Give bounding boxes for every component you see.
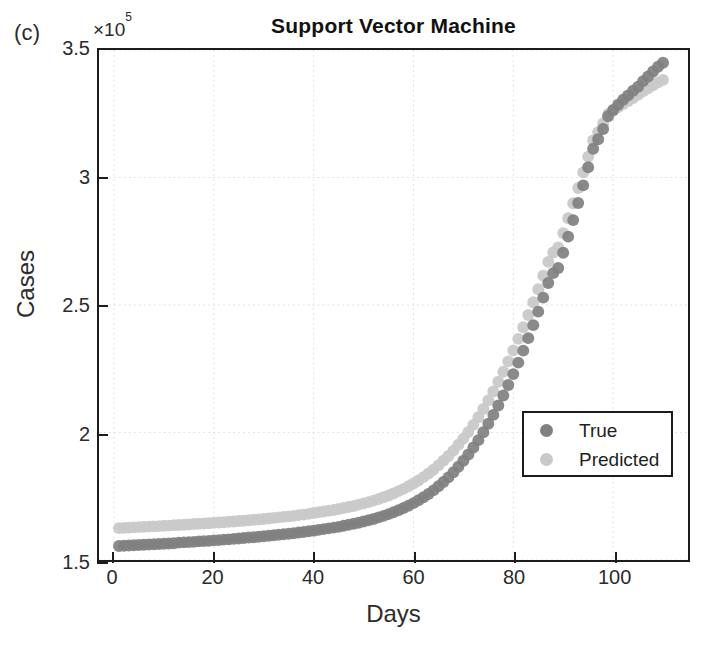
x-axis-label: Days [97,600,690,628]
plot-area [97,48,690,562]
x-tick-mark [514,552,516,563]
legend-label-predicted: Predicted [579,449,659,471]
x-tick-mark [414,552,416,563]
y-tick-mark [97,305,108,307]
y-tick-mark [97,562,108,564]
y-tick-label: 2 [20,422,90,445]
y-tick-mark [97,434,108,436]
legend-marker-predicted-icon [540,453,553,466]
y-axis-label: Cases [12,224,40,344]
x-tick-label: 40 [273,566,353,589]
legend: True Predicted [522,411,673,477]
x-tick-label: 100 [575,566,655,589]
y-tick-label: 3.5 [20,37,90,60]
legend-item-true: True [524,415,671,446]
y-tick-mark [97,177,108,179]
x-tick-label: 60 [374,566,454,589]
legend-item-predicted: Predicted [524,444,671,475]
y-tick-label: 3 [20,165,90,188]
x-tick-mark [313,552,315,563]
figure-panel: (c) ×105 Support Vector Machine 1.522.53… [0,0,707,652]
legend-label-true: True [579,420,617,442]
legend-marker-true-icon [540,424,553,437]
x-tick-label: 20 [173,566,253,589]
x-tick-mark [615,552,617,563]
x-tick-mark [112,552,114,563]
y-tick-mark [97,48,108,50]
chart-title: Support Vector Machine [97,14,690,38]
x-tick-mark [213,552,215,563]
scatter-plot-canvas [99,50,688,560]
x-tick-label: 80 [474,566,554,589]
series-true-points [113,57,669,552]
x-tick-label: 0 [72,566,152,589]
